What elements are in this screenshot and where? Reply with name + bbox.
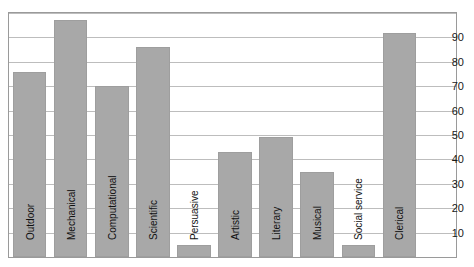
plot-frame: OutdoorMechanicalComputationalScientific… (8, 6, 466, 261)
bar-category-label: Mechanical (66, 189, 77, 240)
bar-category-label: Outdoor (25, 204, 36, 240)
y-tick-label-20: 20 (442, 203, 464, 214)
bar-category-label: Musical (312, 206, 323, 240)
bar-category-label: Artistic (230, 210, 241, 240)
bar-slot: Literary (259, 13, 293, 257)
bar-category-label: Clerical (394, 207, 405, 240)
bar-category-label: Literary (271, 207, 282, 240)
bar-slot: Social service (342, 13, 376, 257)
y-tick-label-30: 30 (442, 178, 464, 189)
bar-category-label: Scientific (148, 200, 159, 240)
bar-slot: Computational (95, 13, 129, 257)
y-tick-label-90: 90 (442, 32, 464, 43)
y-tick-label-10: 10 (442, 227, 464, 238)
bar-category-label: Social service (353, 178, 364, 240)
bar-category-label: Persuasive (189, 191, 200, 240)
baseline-gridline (9, 257, 456, 258)
y-tick-label-40: 40 (442, 154, 464, 165)
bar-slot: Persuasive (177, 13, 211, 257)
bar (342, 245, 376, 257)
bar-slot: Outdoor (13, 13, 47, 257)
y-tick-label-80: 80 (442, 56, 464, 67)
y-tick-label-60: 60 (442, 105, 464, 116)
bar-category-label: Computational (107, 176, 118, 240)
bar (218, 152, 252, 257)
bar-slot: Musical (300, 13, 334, 257)
bar-slot: Scientific (136, 13, 170, 257)
bar (177, 245, 211, 257)
y-tick-label-70: 70 (442, 81, 464, 92)
bar-series: OutdoorMechanicalComputationalScientific… (9, 13, 420, 257)
y-axis: 102030405060708090 (406, 12, 466, 258)
bar-slot: Mechanical (54, 13, 88, 257)
bar-slot: Artistic (218, 13, 252, 257)
y-tick-label-50: 50 (442, 130, 464, 141)
bar-chart: OutdoorMechanicalComputationalScientific… (0, 0, 474, 267)
